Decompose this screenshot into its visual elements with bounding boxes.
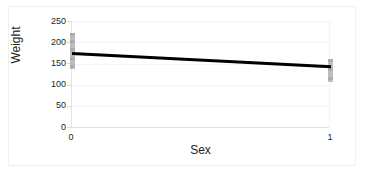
- y-axis-tick-labels: 250 200 150 100 50 0: [34, 0, 66, 177]
- y-tick-label-100: 100: [51, 80, 66, 89]
- plot-area: [71, 21, 330, 128]
- y-tick-label-200: 200: [51, 38, 66, 47]
- y-tick-label-250: 250: [51, 17, 66, 26]
- y-tick-label-0: 0: [61, 123, 66, 132]
- trend-line: [72, 21, 331, 128]
- y-tick-label-50: 50: [56, 101, 66, 110]
- y-tick-label-150: 150: [51, 59, 66, 68]
- chart-figure: 250 200 150 100 50 0 Weight: [0, 0, 370, 177]
- y-axis-title: Weight: [9, 5, 23, 85]
- x-axis-title: Sex: [71, 143, 330, 157]
- x-tick-label-1: 1: [320, 133, 340, 142]
- x-tick-label-0: 0: [61, 133, 81, 142]
